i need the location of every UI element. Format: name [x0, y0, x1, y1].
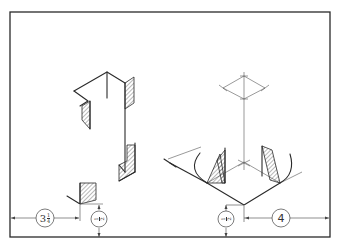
dim-right-value: 4: [278, 212, 285, 225]
right-figure: [164, 72, 302, 205]
dim-label-right-vertical: 1 2: [219, 212, 233, 226]
dim-lv-den: 2: [100, 217, 105, 220]
dim-left-den: 4: [47, 219, 50, 224]
dim-label-right: 4: [273, 210, 289, 226]
dim-rv-den: 2: [227, 217, 232, 220]
left-figure: [67, 72, 135, 204]
dim-label-left-vertical: 1 2: [92, 212, 106, 226]
drawing-border: [10, 12, 330, 237]
dim-left-whole: 3: [40, 213, 46, 224]
dim-label-left: 3 1 4: [37, 210, 53, 226]
